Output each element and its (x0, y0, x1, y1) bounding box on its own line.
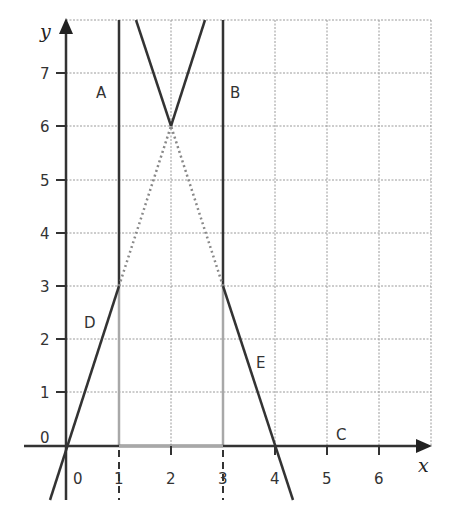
y-tick-label-7: 7 (40, 65, 50, 83)
y-tick-label-3: 3 (40, 278, 50, 296)
y-tick-label-0: 0 (40, 429, 50, 447)
grid (66, 20, 431, 446)
line-label-c: C (336, 426, 346, 444)
x-tick-label-5: 5 (322, 470, 332, 488)
line-label-e: E (256, 354, 265, 372)
line-label-b: B (230, 84, 240, 102)
x-axis-arrow-icon (416, 439, 432, 453)
x-axis-label: x (418, 454, 429, 476)
y-tick-label-4: 4 (40, 225, 50, 243)
linear-graph-diagram: 0 1 2 3 4 5 6 0 1 2 3 4 5 6 7 x y A B C … (0, 0, 453, 515)
region-boundary (119, 286, 223, 446)
line-label-d: D (84, 314, 96, 332)
y-axis-label: y (39, 20, 51, 42)
x-tick-label-2: 2 (166, 470, 176, 488)
x-tick-label-4: 4 (270, 470, 280, 488)
y-tick-label-2: 2 (40, 331, 50, 349)
x-tick-label-1: 1 (114, 470, 124, 488)
y-ticks (56, 73, 66, 392)
x-tick-label-3: 3 (218, 470, 228, 488)
y-tick-label-6: 6 (40, 118, 50, 136)
line-d-dotted (119, 126, 171, 286)
x-tick-label-0: 0 (73, 470, 83, 488)
line-e (223, 286, 293, 500)
y-tick-label-5: 5 (40, 172, 50, 190)
line-e-dotted (171, 126, 223, 286)
line-label-a: A (96, 84, 107, 102)
y-tick-label-1: 1 (40, 384, 50, 402)
x-tick-label-6: 6 (374, 470, 384, 488)
